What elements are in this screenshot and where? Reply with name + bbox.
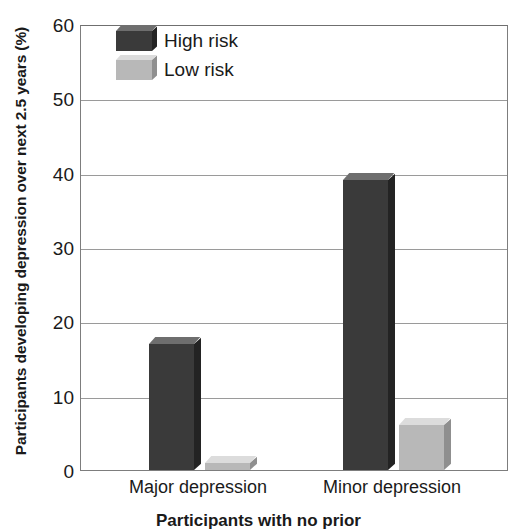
gridline: [81, 249, 507, 250]
legend-label-high-risk: High risk: [164, 31, 238, 50]
x-axis-tick-label: Major depression: [129, 478, 267, 496]
x-axis-tick-label: Minor depression: [323, 478, 461, 496]
gridline: [81, 100, 507, 101]
legend-swatch-high-risk: [116, 31, 152, 51]
bar-high-risk: [343, 180, 388, 470]
bar-low-risk: [399, 425, 444, 470]
chart-legend: High risk Low risk: [112, 26, 292, 84]
plot-area: [80, 25, 508, 471]
y-axis-tick-label: 60: [28, 16, 74, 35]
y-axis-tick-label: 20: [28, 313, 74, 332]
bar-low-risk: [205, 463, 250, 470]
gridline: [81, 323, 507, 324]
y-axis-tick-label: 0: [28, 462, 74, 481]
y-axis-tick-label: 50: [28, 90, 74, 109]
legend-item-high-risk: High risk: [112, 26, 292, 55]
gridline: [81, 175, 507, 176]
legend-item-low-risk: Low risk: [112, 55, 292, 84]
y-axis-tick-label: 30: [28, 239, 74, 258]
y-axis-tick-label: 40: [28, 164, 74, 183]
bar-high-risk: [149, 344, 194, 470]
legend-swatch-low-risk: [116, 60, 152, 80]
x-axis-title: Participants with no prior: [0, 512, 517, 529]
gridline: [81, 398, 507, 399]
bar-chart-figure: Participants developing depression over …: [0, 0, 517, 532]
y-axis-tick-labels: 0102030405060: [28, 0, 74, 532]
legend-label-low-risk: Low risk: [164, 60, 234, 79]
y-axis-tick-label: 10: [28, 387, 74, 406]
